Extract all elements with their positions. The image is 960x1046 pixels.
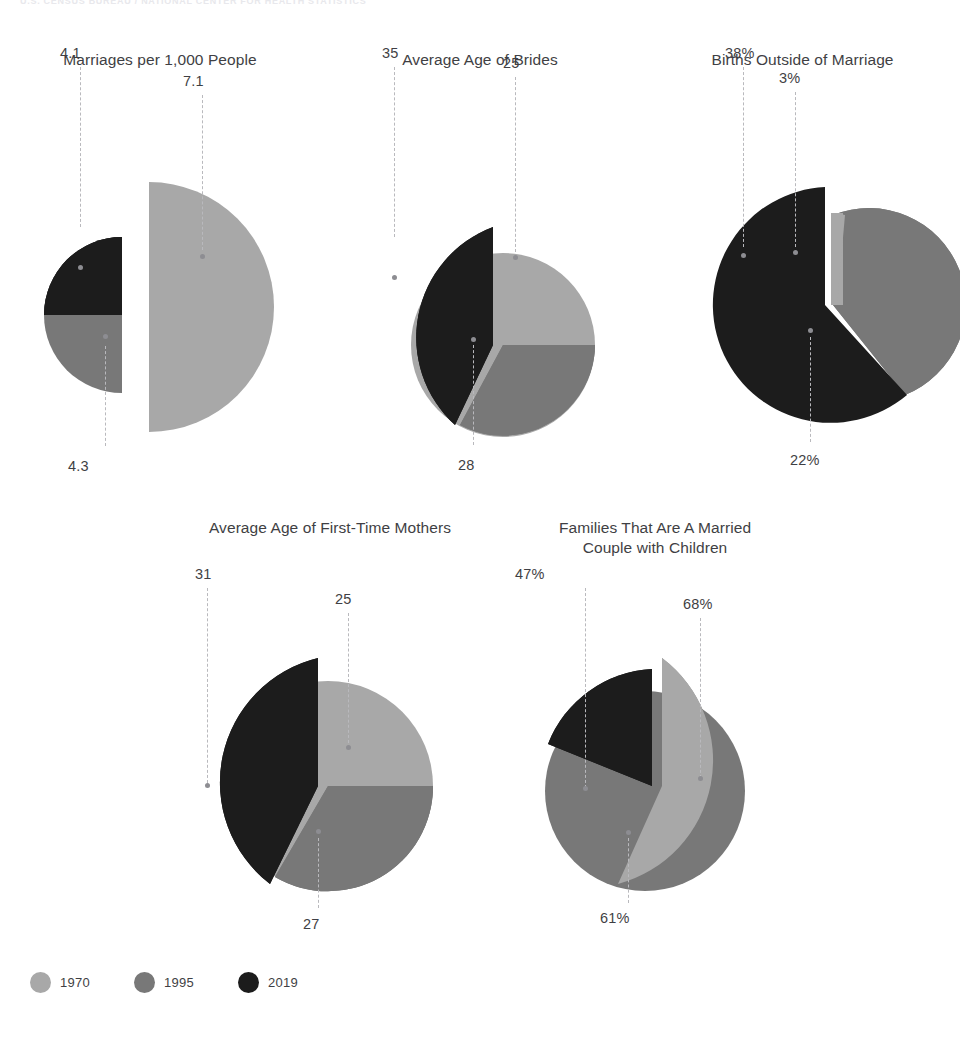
chart-pies <box>160 596 500 926</box>
leader-line-1970 <box>348 613 349 743</box>
legend-swatch-circle-icon <box>30 972 51 993</box>
chart-title: Average Age of First-Time Mothers <box>140 518 520 538</box>
anchor-dot-1970 <box>793 250 798 255</box>
leader-line-1995 <box>473 345 474 445</box>
leader-line-2019 <box>394 67 395 237</box>
value-label-1970: 3% <box>779 70 800 86</box>
value-label-2019: 35 <box>382 45 398 61</box>
leader-line-2019 <box>207 588 208 783</box>
anchor-dot-2019 <box>392 275 397 280</box>
pie-svg <box>510 596 810 926</box>
value-label-1995: 27 <box>303 916 319 932</box>
value-label-1995: 4.3 <box>68 458 89 474</box>
chart-pies <box>350 105 620 435</box>
anchor-dot-2019 <box>741 253 746 258</box>
value-label-1970: 68% <box>683 596 712 612</box>
value-label-1995: 28 <box>458 457 474 473</box>
value-label-1970: 7.1 <box>183 73 204 89</box>
leader-line-1995 <box>105 346 106 446</box>
leader-line-1995 <box>318 838 319 908</box>
anchor-dot-2019 <box>583 786 588 791</box>
anchor-dot-1995 <box>103 334 108 339</box>
chart-title-line2: Couple with Children <box>490 538 820 558</box>
legend-label: 2019 <box>268 975 298 990</box>
leader-line-1970 <box>795 92 796 247</box>
legend-label: 1970 <box>60 975 90 990</box>
legend-item-1970: 1970 <box>30 972 90 993</box>
chart-average-age-brides: Average Age of Brides 35 25 28 <box>330 50 630 490</box>
chart-families-married-couple-with-children: Families That Are A Married Couple with … <box>490 518 820 978</box>
anchor-dot-2019 <box>205 783 210 788</box>
chart-average-age-first-time-mothers: Average Age of First-Time Mothers 31 25 … <box>140 518 520 978</box>
legend-item-1995: 1995 <box>134 972 194 993</box>
anchor-dot-1970 <box>513 255 518 260</box>
value-label-1995: 61% <box>600 910 629 926</box>
chart-title: Average Age of Brides <box>330 50 630 70</box>
leader-line-1970 <box>515 77 516 252</box>
value-label-1970: 25 <box>503 55 519 71</box>
chart-pies <box>665 105 945 445</box>
chart-title: Marriages per 1,000 People <box>0 50 320 70</box>
anchor-dot-1970 <box>698 776 703 781</box>
anchor-dot-1970 <box>200 254 205 259</box>
value-label-1995: 22% <box>790 452 819 468</box>
legend: 1970 1995 2019 <box>30 972 342 993</box>
anchor-dot-1995 <box>471 337 476 342</box>
anchor-dot-1970 <box>346 745 351 750</box>
pie-svg <box>160 596 500 926</box>
wedge-1970 <box>149 182 274 432</box>
legend-label: 1995 <box>164 975 194 990</box>
pie-svg <box>665 105 945 445</box>
leader-line-2019 <box>80 67 81 227</box>
pie-svg <box>350 105 620 435</box>
chart-births-outside-marriage: Births Outside of Marriage 38% 3% 22% <box>645 50 960 490</box>
leader-line-2019 <box>743 67 744 247</box>
chart-marriages-per-1000: Marriages per 1,000 People 4.1 7.1 4.3 <box>0 50 320 490</box>
anchor-dot-1995 <box>626 830 631 835</box>
value-label-1970: 25 <box>335 591 351 607</box>
value-label-2019: 31 <box>195 566 211 582</box>
legend-swatch-circle-icon <box>134 972 155 993</box>
value-label-2019: 38% <box>725 45 754 61</box>
legend-swatch-circle-icon <box>238 972 259 993</box>
chart-pies <box>510 596 810 926</box>
value-label-2019: 4.1 <box>60 45 81 61</box>
leader-line-1970 <box>700 618 701 778</box>
leader-line-1970 <box>202 95 203 250</box>
legend-item-2019: 2019 <box>238 972 298 993</box>
anchor-dot-2019 <box>78 265 83 270</box>
pie-svg <box>20 105 300 435</box>
chart-pies <box>20 105 300 435</box>
chart-title-line1: Families That Are A Married <box>490 518 820 538</box>
leader-line-1995 <box>810 337 811 442</box>
chart-title: Births Outside of Marriage <box>645 50 960 70</box>
leader-line-2019 <box>585 588 586 788</box>
leader-line-1995 <box>628 838 629 903</box>
value-label-2019: 47% <box>515 566 544 582</box>
anchor-dot-1995 <box>316 829 321 834</box>
anchor-dot-1995 <box>808 328 813 333</box>
wedge-2019-upper <box>44 237 122 315</box>
source-kicker: U.S. CENSUS BUREAU / NATIONAL CENTER FOR… <box>20 0 366 6</box>
